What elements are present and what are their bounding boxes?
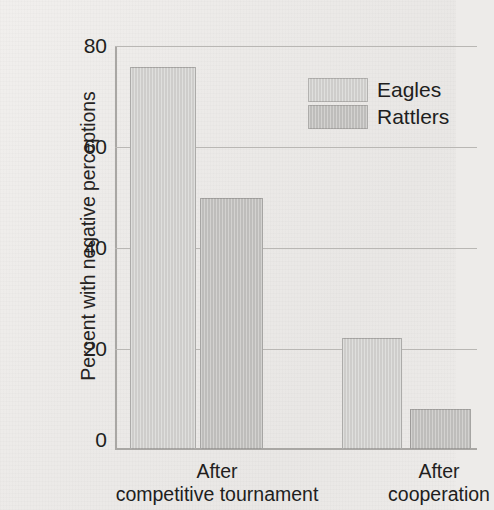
x-axis-category-label-0-line2: competitive tournament: [77, 483, 357, 506]
x-axis-category-label-1: After cooperation: [339, 460, 494, 505]
bar-eagles-after-cooperation[interactable]: [342, 338, 402, 449]
y-tick-label-80: 80: [84, 34, 107, 58]
bar-rattlers-after-competitive-tournament[interactable]: [200, 198, 263, 449]
legend-item-rattlers[interactable]: Rattlers: [308, 103, 449, 130]
y-tick-label-40: 40: [84, 236, 107, 260]
y-tick-label-60: 60: [84, 135, 107, 159]
x-axis-category-label-0: After competitive tournament: [77, 460, 357, 505]
bar-rattlers-after-cooperation[interactable]: [410, 409, 471, 449]
x-axis-category-label-1-line2: cooperation: [339, 483, 494, 506]
legend-label-rattlers: Rattlers: [377, 106, 449, 127]
legend-swatch-rattlers: [308, 105, 368, 129]
chart-legend: Eagles Rattlers: [308, 76, 449, 130]
y-tick-label-0: 0: [95, 428, 107, 452]
x-axis-category-label-1-line1: After: [418, 460, 459, 482]
x-axis-labels: After competitive tournament After coope…: [117, 460, 479, 510]
bar-eagles-after-competitive-tournament[interactable]: [130, 67, 196, 449]
legend-swatch-eagles: [308, 78, 368, 102]
legend-label-eagles: Eagles: [377, 79, 441, 100]
y-tick-label-20: 20: [84, 337, 107, 361]
legend-item-eagles[interactable]: Eagles: [308, 76, 449, 103]
x-axis-category-label-0-line1: After: [196, 460, 237, 482]
bar-chart-figure: Percent with negative perceptions 80 60 …: [40, 16, 416, 494]
gridline-80: 80: [115, 46, 477, 47]
